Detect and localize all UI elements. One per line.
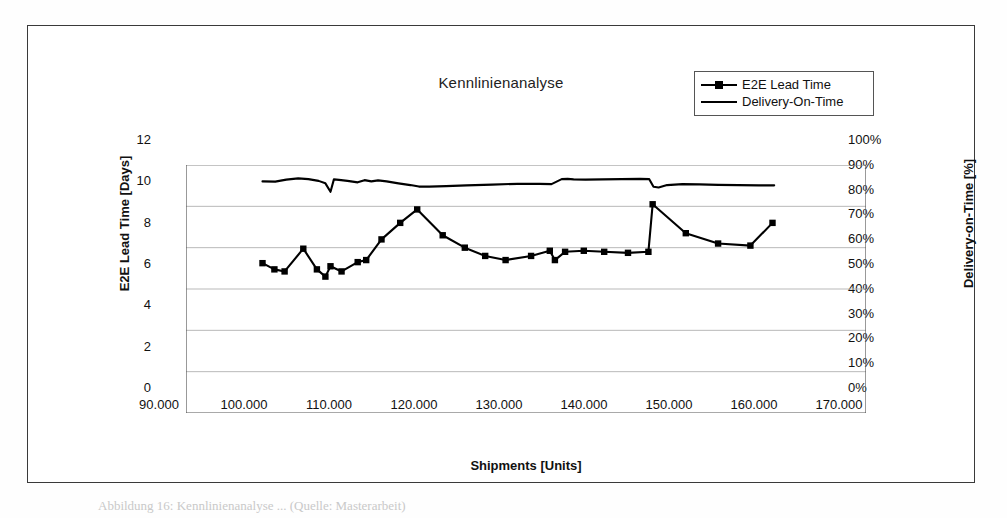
series-marker-0 [625,250,631,256]
series-marker-0 [502,257,508,263]
series-marker-0 [747,242,753,248]
series-marker-0 [645,249,651,255]
series-marker-0 [601,249,607,255]
series-marker-0 [769,220,775,226]
series-marker-0 [327,263,333,269]
series-marker-0 [528,253,534,259]
series-marker-0 [259,260,265,266]
y-tick-label: 0 [107,380,151,395]
chart-legend: E2E Lead Time Delivery-On-Time [694,71,874,116]
series-marker-0 [281,268,287,274]
y-tick-label: 10 [107,173,151,188]
series-marker-0 [547,248,553,254]
y-axis-right-title: Delivery-on-Time [%] [961,114,976,334]
chart-canvas [186,165,866,413]
figure-page: Kennlinienanalyse E2E Lead Time Delivery… [0,0,1007,518]
y-tick-label: 6 [107,256,151,271]
series-marker-0 [322,273,328,279]
series-marker-0 [552,257,558,263]
series-marker-0 [363,257,369,263]
y-tick-label: 12 [107,132,151,147]
series-marker-0 [414,206,420,212]
series-marker-0 [683,230,689,236]
series-marker-0 [562,249,568,255]
y-tick-label: 8 [107,215,151,230]
series-line-0 [263,204,773,276]
series-marker-0 [440,232,446,238]
series-marker-0 [482,253,488,259]
x-axis-title: Shipments [Units] [186,458,866,473]
series-marker-0 [715,240,721,246]
series-line-1 [263,178,775,191]
chart-frame: Kennlinienanalyse E2E Lead Time Delivery… [27,25,975,483]
legend-item-lead-time[interactable]: E2E Lead Time [701,76,867,93]
legend-key-line-icon [701,95,737,108]
series-marker-0 [300,246,306,252]
series-marker-0 [649,201,655,207]
figure-caption: Abbildung 16: Kennlinienanalyse ... (Que… [98,498,406,514]
series-marker-0 [355,259,361,265]
series-marker-0 [397,220,403,226]
series-marker-0 [581,248,587,254]
legend-item-delivery-on-time[interactable]: Delivery-On-Time [701,93,867,110]
legend-label-lead-time: E2E Lead Time [742,77,831,92]
y-tick-label: 4 [107,297,151,312]
y-tick-label: 2 [107,339,151,354]
legend-key-square-line-icon [701,78,737,91]
series-marker-0 [271,266,277,272]
series-marker-0 [314,266,320,272]
series-marker-0 [378,236,384,242]
plot-area [186,165,866,413]
legend-label-delivery-on-time: Delivery-On-Time [742,94,843,109]
series-marker-0 [462,244,468,250]
series-marker-0 [338,268,344,274]
y2-tick-label: 100% [848,132,898,147]
